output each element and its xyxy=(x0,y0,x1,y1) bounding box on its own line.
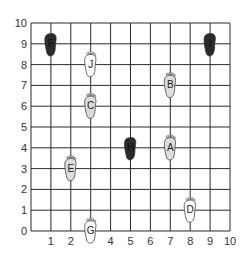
footprint-label: D xyxy=(187,204,194,215)
x-axis-tick-labels: 1245678910 xyxy=(48,235,236,247)
x-tick-label: 1 xyxy=(48,235,54,247)
y-tick-label: 0 xyxy=(21,225,27,237)
y-tick-label: 1 xyxy=(21,204,27,216)
y-tick-label: 7 xyxy=(21,79,27,91)
y-tick-label: 4 xyxy=(21,142,27,154)
footprint-label: G xyxy=(87,225,95,236)
footprint-icon-j: J xyxy=(85,52,96,77)
x-tick-label: 4 xyxy=(108,235,114,247)
y-tick-label: 3 xyxy=(21,163,27,175)
footprint-label: C xyxy=(87,100,94,111)
footprint-icon-f: F xyxy=(45,34,56,56)
x-tick-label: 2 xyxy=(68,235,74,247)
y-tick-label: 9 xyxy=(21,38,27,50)
footprint-label: A xyxy=(167,142,174,153)
y-tick-label: 5 xyxy=(21,121,27,133)
y-tick-label: 10 xyxy=(15,17,27,29)
footprint-icon-a: A xyxy=(164,135,175,160)
x-tick-label: 7 xyxy=(167,235,173,247)
grid-lines xyxy=(31,23,230,231)
footprint-label: H xyxy=(127,142,134,153)
y-tick-label: 8 xyxy=(21,59,27,71)
footprint-icon-d: D xyxy=(184,197,195,222)
y-axis-tick-labels: 012345678910 xyxy=(15,17,27,237)
footprint-icon-e: E xyxy=(65,156,76,181)
footprint-icon-g: G xyxy=(85,218,96,243)
footprint-label: E xyxy=(67,163,74,174)
footprint-icon-c: C xyxy=(85,93,96,118)
y-tick-label: 2 xyxy=(21,183,27,195)
x-tick-label: 10 xyxy=(224,235,236,247)
footprint-label: F xyxy=(48,38,54,49)
footprint-icon-b: B xyxy=(164,72,175,97)
footprint-label: J xyxy=(88,59,93,70)
x-tick-label: 9 xyxy=(207,235,213,247)
footprint-icon-h: H xyxy=(125,138,136,160)
footprint-label: I xyxy=(209,38,212,49)
y-tick-label: 6 xyxy=(21,100,27,112)
coordinate-grid-diagram: 012345678910 1245678910 FIJBCHAEDG xyxy=(0,0,248,261)
footprint-label: B xyxy=(167,79,174,90)
footprint-icon-i: I xyxy=(204,34,215,56)
x-tick-label: 8 xyxy=(187,235,193,247)
x-tick-label: 5 xyxy=(127,235,133,247)
x-tick-label: 6 xyxy=(147,235,153,247)
